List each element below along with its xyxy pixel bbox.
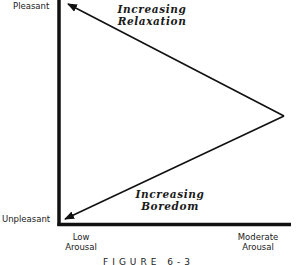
diagram-canvas: [0, 0, 297, 265]
moderate-arousal-line1: Moderate: [233, 232, 283, 242]
moderate-arousal-label: Moderate Arousal: [233, 232, 283, 252]
increasing-boredom-line1: Increasing: [130, 188, 210, 200]
low-arousal-line2: Arousal: [63, 242, 99, 252]
figure-caption: FIGURE 6-3: [0, 257, 297, 265]
increasing-boredom-label: Increasing Boredom: [130, 188, 210, 212]
moderate-arousal-line2: Arousal: [233, 242, 283, 252]
unpleasant-label: Unpleasant: [2, 214, 50, 224]
pleasant-label: Pleasant: [13, 1, 49, 11]
low-arousal-label: Low Arousal: [63, 232, 99, 252]
increasing-relaxation-line1: Increasing: [110, 3, 194, 15]
low-arousal-line1: Low: [63, 232, 99, 242]
increasing-boredom-line2: Boredom: [130, 200, 210, 212]
increasing-relaxation-label: Increasing Relaxation: [110, 3, 194, 27]
increasing-relaxation-line2: Relaxation: [110, 15, 194, 27]
